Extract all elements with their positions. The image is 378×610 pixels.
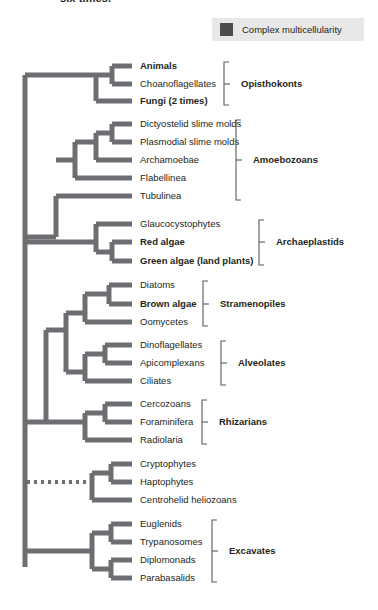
taxon-label-cryptophytes: Cryptophytes: [140, 458, 196, 469]
tree-branches: [25, 66, 132, 578]
clade-label-alveolates: Alveolates: [238, 357, 286, 368]
taxon-label-red-algae: Red algae: [140, 236, 185, 247]
taxon-label-parabasalids: Parabasalids: [140, 572, 195, 583]
taxon-label-brown-algae: Brown algae: [140, 298, 197, 309]
taxon-label-trypanosomes: Trypanosomes: [140, 536, 203, 547]
taxon-label-apicomplexans: Apicomplexans: [140, 357, 205, 368]
cladogram-svg: AnimalsChoanoflagellatesFungi (2 times)D…: [0, 0, 378, 610]
phylogenetic-tree-figure: six times. Complex multicellularity Anim…: [0, 0, 378, 610]
taxon-label-flabellinea: Flabellinea: [140, 172, 187, 183]
taxon-label-green-algae: Green algae (land plants): [140, 255, 254, 266]
clade-label-excavates: Excavates: [229, 545, 275, 556]
clade-label-amoebozoans: Amoebozoans: [253, 154, 318, 165]
taxon-label-foraminifera: Foraminifera: [140, 416, 194, 427]
taxon-label-euglenids: Euglenids: [140, 518, 182, 529]
taxon-label-centrohelid: Centrohelid heliozoans: [140, 494, 237, 505]
taxon-label-oomycetes: Oomycetes: [140, 316, 188, 327]
clade-label-archaeplastids: Archaeplastids: [276, 236, 344, 247]
taxon-label-diatoms: Diatoms: [140, 279, 175, 290]
clade-label-opisthokonts: Opisthokonts: [241, 78, 302, 89]
taxon-label-plasmodial: Plasmodial slime molds: [140, 136, 240, 147]
taxon-label-diplomonads: Diplomonads: [140, 554, 196, 565]
taxon-label-cercozoans: Cercozoans: [140, 398, 191, 409]
taxon-label-archamoebae: Archamoebae: [140, 154, 199, 165]
taxon-label-choanoflagellates: Choanoflagellates: [140, 78, 216, 89]
clade-label-rhizarians: Rhizarians: [219, 416, 267, 427]
taxon-label-tubulinea: Tubulinea: [140, 190, 182, 201]
taxon-label-fungi: Fungi (2 times): [140, 95, 208, 106]
taxon-label-dinoflagellates: Dinoflagellates: [140, 339, 203, 350]
taxon-label-radiolaria: Radiolaria: [140, 434, 183, 445]
taxon-label-dictyostelid: Dictyostelid slime molds: [140, 118, 242, 129]
taxon-label-haptophytes: Haptophytes: [140, 476, 194, 487]
taxon-label-glaucocystophytes: Glaucocystophytes: [140, 218, 221, 229]
taxon-label-ciliates: Ciliates: [140, 375, 171, 386]
taxon-label-animals: Animals: [140, 60, 177, 71]
clade-label-stramenopiles: Stramenopiles: [220, 298, 285, 309]
